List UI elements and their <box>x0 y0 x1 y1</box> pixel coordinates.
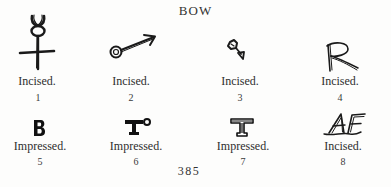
knotted-arrow-icon <box>225 38 249 64</box>
book-page: BOW Incised. 1 Incised. 2 <box>0 0 391 187</box>
monogram-af-icon <box>323 111 369 137</box>
mark-type-label: Incised. <box>18 74 56 89</box>
mark-number: 2 <box>129 92 134 103</box>
mark-type-label: Impressed. <box>110 139 162 154</box>
circle-arrow-icon <box>108 32 158 62</box>
mark-number: 1 <box>36 92 41 103</box>
page-title: BOW <box>0 3 391 19</box>
letter-r-icon <box>324 40 362 74</box>
mark-type-label: Incised. <box>221 74 259 89</box>
horned-cross-icon <box>18 12 58 72</box>
mark-type-label: Incised. <box>321 74 359 89</box>
letter-b-icon <box>33 119 47 137</box>
letter-t-icon <box>230 117 254 137</box>
mark-type-label: Impressed. <box>217 139 269 154</box>
letter-t-with-circle-icon <box>124 118 152 136</box>
mark-number: 6 <box>134 156 139 167</box>
mark-type-label: Incised. <box>324 139 362 154</box>
page-number: 385 <box>178 164 201 179</box>
mark-number: 8 <box>341 156 346 167</box>
mark-type-label: Impressed. <box>14 139 66 154</box>
mark-number: 5 <box>38 156 43 167</box>
mark-number: 4 <box>338 92 343 103</box>
mark-type-label: Incised. <box>112 74 150 89</box>
mark-number: 3 <box>238 92 243 103</box>
mark-number: 7 <box>241 156 246 167</box>
